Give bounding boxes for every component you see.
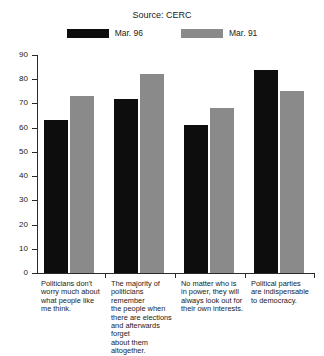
x-axis-tick-end [314, 273, 315, 278]
bar-mar91-cat1[interactable] [70, 96, 94, 273]
x-axis-category-label: No matter who isin power, they willalway… [181, 280, 247, 314]
bar-mar96-cat4[interactable] [254, 70, 278, 273]
bar-mar96-cat2[interactable] [114, 99, 138, 273]
bar-mar91-cat3[interactable] [210, 108, 234, 273]
x-axis-line [37, 273, 315, 274]
category-label-line: about them altogether. [111, 339, 177, 356]
x-axis-tick [105, 273, 106, 278]
x-axis-category-label: The majority ofpoliticians rememberthe p… [111, 280, 177, 356]
bar-mar96-cat3[interactable] [184, 125, 208, 273]
category-label-line: and afterwards forget [111, 322, 177, 339]
x-axis-tick [175, 273, 176, 278]
y-axis-tick [32, 273, 37, 274]
bar-mar96-cat1[interactable] [44, 120, 68, 273]
x-axis-tick [245, 273, 246, 278]
bar-mar91-cat4[interactable] [280, 91, 304, 273]
category-label-line: to democracy. [251, 297, 317, 305]
bars-layer [0, 0, 324, 273]
x-axis-category-label: Politicians don'tworry much aboutwhat pe… [41, 280, 107, 314]
bar-mar91-cat2[interactable] [140, 74, 164, 273]
category-label-line: me think. [41, 305, 107, 313]
category-label-line: politicians remember [111, 288, 177, 305]
x-axis-category-label: Political partiesare indispensableto dem… [251, 280, 317, 305]
category-label-line: their own interests. [181, 305, 247, 313]
